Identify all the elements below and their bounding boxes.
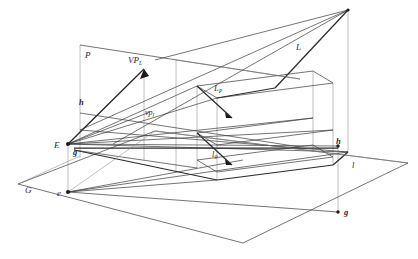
label-VP-group: VPL <box>128 55 142 66</box>
label-picture-plane-P: P <box>84 50 91 60</box>
label-g-right: g <box>343 207 349 217</box>
geometry-diagram: P G E e g h h g l L VPL vpl LP <box>0 0 418 259</box>
label-eye-ground-e: e <box>57 188 61 198</box>
label-line-L: L <box>295 42 301 52</box>
vector-E-VP-arrow <box>140 69 149 79</box>
label-g-left: g <box>72 147 78 157</box>
ray-L-lower-segment <box>217 88 275 98</box>
line-g-to-box-near-bottom <box>74 150 217 180</box>
aux-ground-top-edge <box>155 131 408 163</box>
label-ground-plane-G: G <box>25 185 32 195</box>
line-box-bottom-bold <box>217 165 333 180</box>
label-l0-subscript: 0 <box>214 154 217 160</box>
box-mid-left-edge <box>197 133 217 145</box>
label-vp-main: vp <box>145 108 153 117</box>
vector-E-VP-arrowhead <box>140 69 149 79</box>
line-e-to-box-base <box>68 180 217 192</box>
line-e-to-g-right <box>68 192 338 212</box>
vertex-apex <box>346 8 349 11</box>
vector-l_0 <box>197 133 232 165</box>
label-line-l: l <box>352 160 355 170</box>
line-ground-left-to-plane <box>18 156 80 184</box>
vertex-markers <box>66 8 350 213</box>
vertical-droppers <box>68 10 348 212</box>
label-h-left: h <box>79 97 84 107</box>
box-mid-front-edge <box>197 118 313 133</box>
ray-apex-to-plane-top <box>155 10 348 60</box>
line-E-to-box-mid-right <box>68 118 313 144</box>
label-LP-group: LP <box>213 83 223 94</box>
figure-root: P G E e g h h g l L VPL vpl LP <box>0 0 418 259</box>
label-LP-subscript: P <box>218 88 223 94</box>
vertex-E <box>66 142 70 146</box>
vertex-e <box>66 190 70 194</box>
box-bottom-back-edge <box>217 157 333 172</box>
picture-plane-P <box>80 45 300 172</box>
line-g-to-box-front-bottom <box>74 150 197 168</box>
label-VP-main: VP <box>128 55 139 65</box>
label-eye-point-E: E <box>53 140 60 150</box>
box-bottom-left-edge <box>197 160 217 172</box>
ray-L-upper-segment <box>275 10 348 88</box>
pencil-from-E <box>68 69 348 180</box>
box-top-right-edge <box>313 71 333 83</box>
vertex-g-right <box>336 210 339 213</box>
label-vp-group: vpl <box>145 108 155 118</box>
label-h-right: h <box>336 136 341 146</box>
ray-apex-secondary <box>80 10 348 130</box>
box-top-back-edge <box>217 83 333 98</box>
vector-l0-shaft <box>197 133 232 165</box>
label-VP-subscript: L <box>138 60 142 66</box>
line-E-to-box-front-top <box>68 86 197 144</box>
aux-plane-top-extension <box>176 60 300 79</box>
